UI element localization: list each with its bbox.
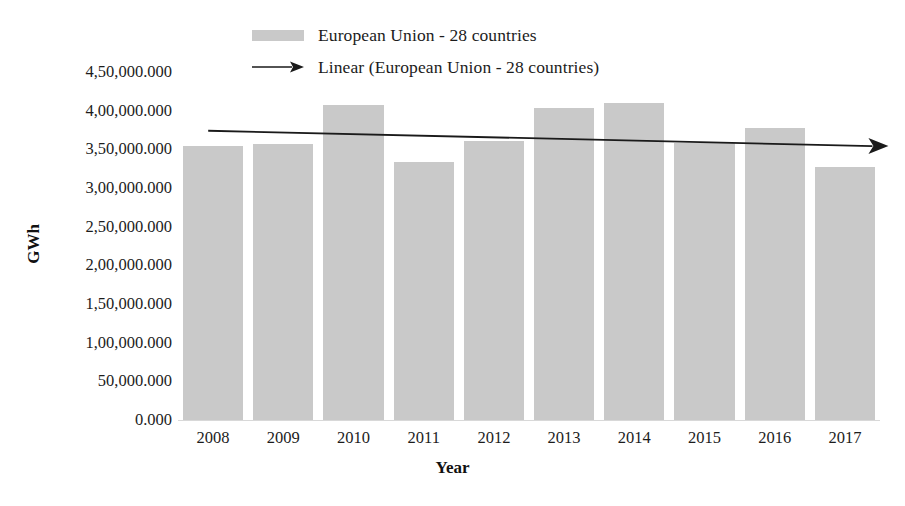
- y-axis-tick-label: 1,50,000.000: [56, 294, 172, 314]
- bar-2008[interactable]: [183, 146, 243, 420]
- x-axis-tick-label: 2009: [267, 428, 300, 448]
- legend-series-label: European Union - 28 countries: [318, 25, 537, 46]
- y-axis-tick-label: 2,50,000.000: [56, 217, 172, 237]
- bar-2010[interactable]: [323, 105, 383, 420]
- y-axis-tick-label: 3,00,000.000: [56, 178, 172, 198]
- x-axis-tick-label: 2015: [688, 428, 721, 448]
- y-axis-tick-label: 0.000: [56, 410, 172, 430]
- x-axis-tick-label: 2011: [407, 428, 439, 448]
- y-axis-tick-label: 50,000.000: [56, 371, 172, 391]
- bar-chart: European Union - 28 countries Linear (Eu…: [0, 0, 905, 506]
- bar-2013[interactable]: [534, 108, 594, 420]
- bar-2017[interactable]: [815, 167, 875, 420]
- x-axis-tick-label: 2016: [758, 428, 791, 448]
- bar-2014[interactable]: [604, 103, 664, 420]
- bar-2011[interactable]: [394, 162, 454, 420]
- bar-2012[interactable]: [464, 141, 524, 420]
- x-axis-tick-label: 2010: [337, 428, 370, 448]
- y-axis-tick-label: 1,00,000.000: [56, 333, 172, 353]
- x-axis-tick-labels: 2008200920102011201220132014201520162017: [178, 428, 880, 454]
- x-axis-tick-label: 2008: [197, 428, 230, 448]
- y-axis-title-text: GWh: [24, 224, 44, 264]
- y-axis-tick-labels: 0.00050,000.0001,00,000.0001,50,000.0002…: [56, 0, 172, 506]
- legend-item-series[interactable]: European Union - 28 countries: [252, 22, 537, 48]
- plot-area: [178, 58, 880, 420]
- y-axis-title: GWh: [12, 204, 56, 284]
- x-axis-tick-label: 2013: [548, 428, 581, 448]
- x-axis-title: Year: [0, 458, 905, 478]
- x-axis-tick-label: 2014: [618, 428, 651, 448]
- x-axis-tick-label: 2017: [828, 428, 861, 448]
- y-axis-tick-label: 4,00,000.000: [56, 101, 172, 121]
- bar-2009[interactable]: [253, 144, 313, 420]
- y-axis-tick-label: 3,50,000.000: [56, 139, 172, 159]
- x-axis-title-text: Year: [436, 458, 470, 477]
- bar-2016[interactable]: [745, 128, 805, 420]
- legend-series-swatch-icon: [252, 30, 304, 41]
- x-axis-tick-label: 2012: [477, 428, 510, 448]
- x-axis-baseline: [178, 420, 880, 421]
- y-axis-tick-label: 2,00,000.000: [56, 255, 172, 275]
- bar-2015[interactable]: [674, 143, 734, 420]
- y-axis-tick-label: 4,50,000.000: [56, 62, 172, 82]
